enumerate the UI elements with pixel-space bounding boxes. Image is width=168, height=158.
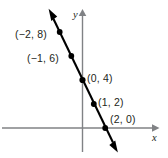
data-point-neg2-8 (57, 29, 63, 35)
point-label-0-4: (0, 4) (87, 73, 113, 84)
x-axis-label: x (152, 133, 157, 144)
y-axis-label: y (73, 10, 78, 21)
line-lower-arrowhead-icon (109, 141, 118, 153)
point-label-neg2-8: (−2, 8) (15, 29, 47, 40)
data-point-1-2 (91, 101, 97, 107)
x-axis (2, 124, 160, 132)
point-label-1-2: (1, 2) (98, 97, 124, 108)
point-label-2-0: (2, 0) (110, 114, 136, 125)
line-upper-arrowhead-icon (49, 9, 58, 21)
data-point-neg1-6 (68, 53, 74, 59)
point-label-neg1-6: (−1, 6) (27, 53, 59, 64)
coordinate-graph-figure: (−2, 8) (−1, 6) (0, 4) (1, 2) (2, 0) y x (0, 0, 168, 158)
x-axis-arrowhead-icon (152, 124, 160, 132)
data-point-0-4 (79, 77, 85, 83)
graph-canvas (0, 0, 168, 158)
y-axis-arrowhead-icon (79, 9, 87, 16)
data-point-2-0 (102, 125, 108, 131)
